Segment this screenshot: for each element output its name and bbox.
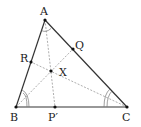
point-r [29,60,32,63]
segment-c-r [31,62,127,107]
side-ca [45,20,127,107]
point-c [125,105,128,108]
segment-a-p [45,20,55,107]
diagram-canvas: A B C Q R X P′ [0,0,141,127]
point-x [49,69,52,72]
angle-mark-a [42,29,52,32]
label-x: X [59,66,67,79]
triangle-diagram: A B C Q R X P′ [0,0,141,127]
label-r: R [20,52,29,65]
label-c: C [122,111,130,124]
label-a: A [39,5,49,18]
label-b: B [10,111,18,124]
label-p: P′ [48,111,58,124]
point-p [53,105,56,108]
angle-mark-b-outer [22,90,29,107]
point-a [43,18,46,21]
point-b [14,105,17,108]
label-q: Q [75,39,84,52]
angle-mark-b-inner [23,93,27,107]
